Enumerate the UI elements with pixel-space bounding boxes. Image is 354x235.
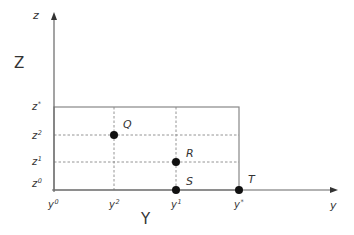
feasible-rectangle [54,107,239,190]
z-tick-label-1: z1 [32,156,42,167]
y-tick-label-0: y0 [48,199,59,210]
y-axis-arrow-icon [330,187,338,193]
point-t-marker [235,186,243,194]
point-q-label: Q [123,119,132,130]
z-tick-label-2: z2 [32,130,42,141]
point-q-marker [110,131,118,139]
point-s-marker [172,186,180,194]
point-t-label: T [248,174,255,185]
z-axis-title: Z [14,56,24,71]
y-tick-label-2: y2 [109,199,120,210]
y-axis-label: y [330,200,337,211]
point-s-label: S [186,176,193,187]
z-tick-label-0: z0 [32,178,42,189]
y-tick-label-star: y* [234,199,244,210]
y-axis-title: Y [141,212,150,227]
z-axis-label: z [33,10,39,21]
z-axis-arrow-icon [51,12,57,20]
point-r-marker [172,158,180,166]
point-r-label: R [186,148,194,159]
z-tick-label-star: z* [32,101,41,112]
y-tick-label-1: y1 [171,199,182,210]
